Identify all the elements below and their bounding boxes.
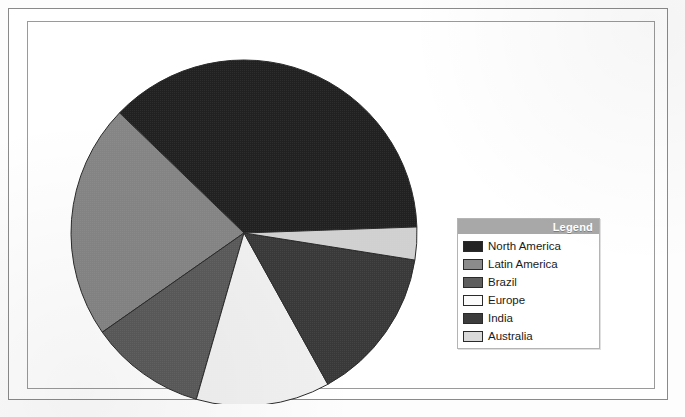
legend-item-label: India [488,312,513,324]
legend-item-label: North America [488,240,561,252]
legend-item[interactable]: Latin America [460,255,599,273]
legend-item-list: North AmericaLatin AmericaBrazilEuropeIn… [458,234,599,348]
legend-color-swatch [463,259,483,270]
legend-title: Legend [458,219,599,234]
legend-color-swatch [463,241,483,252]
pie-chart-plot-area [64,52,424,404]
legend-item-label: Latin America [488,258,558,270]
pie-texture-overlay [71,60,417,404]
legend-item[interactable]: North America [460,237,599,255]
legend-color-swatch [463,313,483,324]
chart-outer-frame: Legend North AmericaLatin AmericaBrazilE… [8,8,668,400]
legend-panel: Legend North AmericaLatin AmericaBrazilE… [457,218,600,349]
legend-item-label: Europe [488,294,525,306]
legend-item[interactable]: Brazil [460,273,599,291]
legend-item-label: Australia [488,330,533,342]
legend-item[interactable]: India [460,309,599,327]
legend-color-swatch [463,331,483,342]
screenshot-root: Legend North AmericaLatin AmericaBrazilE… [0,0,685,417]
legend-item-label: Brazil [488,276,517,288]
legend-item[interactable]: Europe [460,291,599,309]
pie-chart-svg [64,52,424,404]
legend-color-swatch [463,277,483,288]
legend-item[interactable]: Australia [460,327,599,345]
legend-color-swatch [463,295,483,306]
chart-inner-frame: Legend North AmericaLatin AmericaBrazilE… [27,21,655,389]
